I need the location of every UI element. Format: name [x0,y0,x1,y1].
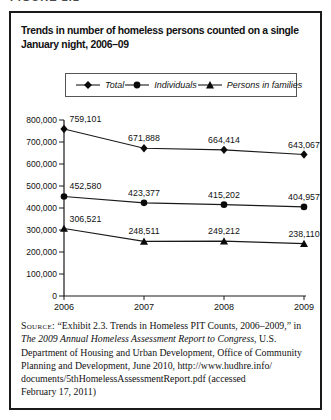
series-line-total [64,129,304,155]
data-point-total [60,125,67,133]
value-label-persons-in-families: 306,521 [70,214,102,224]
source-note: Source: “Exhibit 2.3. Trends in Homeless… [21,319,317,399]
figure-label-clipped: FIGURE 1.1 [10,0,120,4]
y-tick-label: 800,000 [26,115,57,125]
value-label-individuals: 415,202 [208,190,240,200]
circle-marker-icon [124,80,150,90]
legend-label-total: Total [105,80,124,90]
value-label-individuals: 423,377 [128,188,160,198]
y-tick-label: 300,000 [26,225,57,235]
value-label-persons-in-families: 249,212 [208,226,240,236]
chart-area: 0100,000200,000300,000400,000500,000600,… [11,109,320,319]
value-label-total: 643,067 [288,140,320,150]
data-point-individuals [301,204,308,211]
chart-title-line1: Trends in number of homeless persons cou… [21,24,317,38]
data-point-total [140,144,147,152]
x-tick-label: 2006 [54,302,74,312]
series-line-individuals [64,196,304,206]
source-line: documents/5thHomelessAssessmentReport.pd… [21,372,317,385]
legend-item-total: Total [75,80,124,90]
data-point-total [300,150,307,158]
series-line-persons-in-families [64,229,304,244]
legend-label-families: Persons in families [227,80,303,90]
source-line: The 2009 Annual Homeless Assessment Repo… [21,332,317,345]
value-label-persons-in-families: 248,511 [128,226,159,236]
legend-label-individuals: Individuals [154,80,197,90]
diamond-marker-icon [75,80,101,90]
x-tick-label: 2009 [294,302,314,312]
value-label-total: 671,888 [128,133,160,143]
source-line: February 17, 2011) [21,385,317,398]
chart-title: Trends in number of homeless persons cou… [21,24,317,52]
value-label-individuals: 452,580 [70,181,102,191]
y-tick-label: 200,000 [26,247,57,257]
triangle-marker-icon [197,80,223,90]
y-tick-label: 500,000 [26,181,57,191]
data-point-individuals [141,200,148,207]
figure-label-text: FIGURE 1.1 [10,0,120,3]
figure-box: Trends in number of homeless persons cou… [9,11,322,410]
data-point-total [220,146,227,154]
legend: Total Individuals Persons in families [65,73,297,97]
data-point-individuals [221,201,228,208]
x-tick-label: 2007 [134,302,154,312]
y-tick-label: 600,000 [26,159,57,169]
line-chart: 0100,000200,000300,000400,000500,000600,… [11,109,320,319]
source-line: Source: “Exhibit 2.3. Trends in Homeless… [21,319,317,332]
value-label-total: 664,414 [208,135,240,145]
axes [64,120,306,296]
value-label-individuals: 404,957 [288,192,320,202]
y-tick-label: 700,000 [26,137,57,147]
data-point-persons-in-families [60,225,68,232]
source-line: Planning and Development, June 2010, htt… [21,359,317,372]
chart-title-line2: January night, 2006–09 [21,38,317,52]
y-tick-label: 400,000 [26,203,57,213]
source-line: Department of Housing and Urban Developm… [21,346,317,359]
x-tick-label: 2008 [214,302,234,312]
data-point-individuals [61,193,68,200]
legend-item-individuals: Individuals [124,80,197,90]
value-label-total: 759,101 [70,114,102,124]
y-tick-label: 0 [52,291,57,301]
value-label-persons-in-families: 238,110 [288,229,319,239]
y-tick-label: 100,000 [26,269,57,279]
legend-item-persons-in-families: Persons in families [197,80,303,90]
